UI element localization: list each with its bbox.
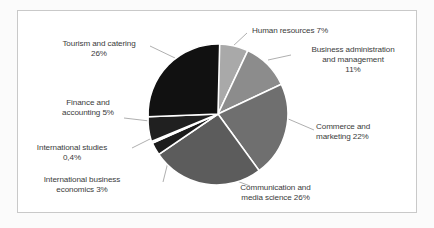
pie-label-commerce: Commerce and marketing 22%	[316, 122, 416, 142]
leader-line-commerce	[286, 118, 314, 130]
pie-slices	[148, 44, 288, 185]
leader-line-business-admin	[268, 55, 291, 60]
pie-chart-page: Human resources 7% Business administrati…	[0, 0, 434, 228]
pie-label-tourism: Tourism and catering 26%	[34, 39, 164, 59]
pie-label-business-admin: Business administration and management 1…	[292, 45, 414, 76]
pie-label-intl-studies: International studies 0,4%	[10, 143, 134, 163]
pie-label-intl-business-economics: International business economics 3%	[22, 175, 142, 195]
leader-line-human-resources	[232, 33, 247, 47]
pie-label-finance: Finance and accounting 5%	[36, 98, 140, 118]
pie-label-human-resources: Human resources 7%	[252, 26, 372, 36]
pie-label-communication: Communication and media science 26%	[218, 183, 333, 203]
